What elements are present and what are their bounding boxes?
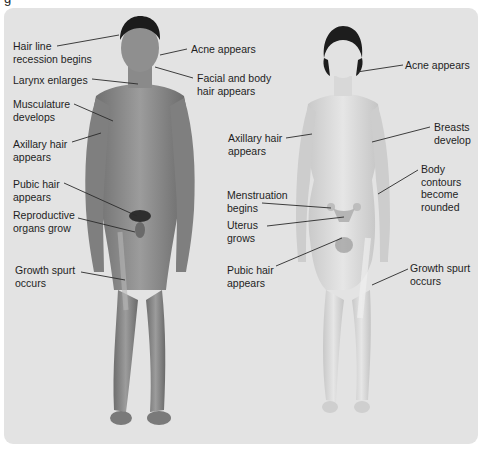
label-menstruation: Menstruation begins bbox=[227, 189, 288, 214]
label-male-axillary-hair: Axillary hair appears bbox=[13, 138, 67, 163]
label-male-pubic-hair: Pubic hair appears bbox=[13, 178, 60, 203]
label-female-growth-spurt: Growth spurt occurs bbox=[410, 262, 470, 287]
label-female-pubic-hair: Pubic hair appears bbox=[227, 264, 274, 289]
label-female-axillary-hair: Axillary hair appears bbox=[228, 132, 282, 157]
label-musculature: Musculature develops bbox=[13, 98, 70, 123]
label-male-growth-spurt: Growth spurt occurs bbox=[15, 264, 75, 289]
male-figure bbox=[85, 16, 194, 425]
label-hairline-recession: Hair line recession begins bbox=[13, 40, 92, 65]
label-breasts-develop: Breasts develop bbox=[434, 121, 471, 146]
label-female-acne: Acne appears bbox=[405, 59, 470, 72]
label-larynx: Larynx enlarges bbox=[13, 74, 88, 87]
label-male-acne: Acne appears bbox=[191, 43, 256, 56]
label-uterus-grows: Uterus grows bbox=[227, 219, 258, 244]
label-body-contours: Body contours become rounded bbox=[421, 163, 461, 213]
label-facial-body-hair: Facial and body hair appears bbox=[197, 72, 271, 97]
female-figure bbox=[296, 26, 390, 413]
label-reproductive-organs: Reproductive organs grow bbox=[13, 209, 75, 234]
